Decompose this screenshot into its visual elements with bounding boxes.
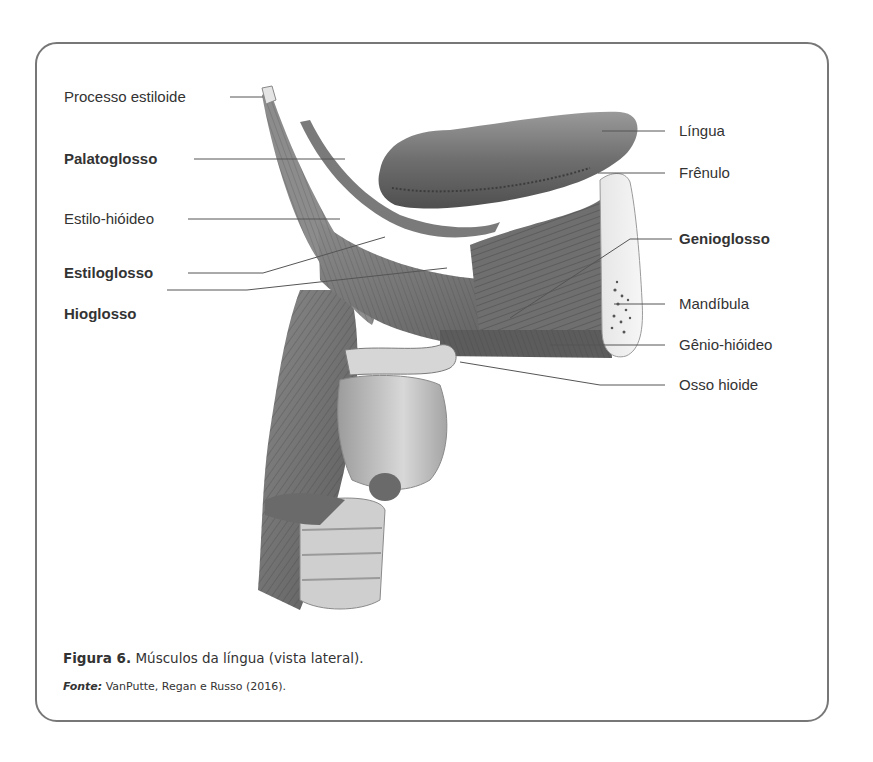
label-hioglosso: Hioglosso <box>64 305 137 323</box>
source-label: Fonte: <box>63 680 102 693</box>
thyroid-cartilage <box>338 375 447 489</box>
label-lingua: Língua <box>679 122 725 140</box>
genioglossus-muscle <box>470 200 610 344</box>
source-text: VanPutte, Regan e Russo (2016). <box>106 680 286 693</box>
figure-caption: Figura 6. Músculos da língua (vista late… <box>63 650 364 666</box>
tongue <box>379 112 638 209</box>
figure-number: Figura 6. <box>63 650 131 666</box>
label-mandibula: Mandíbula <box>679 295 749 313</box>
label-estilo-hioideo: Estilo-hióideo <box>64 210 154 228</box>
label-osso-hioide: Osso hioide <box>679 376 758 394</box>
mandible <box>600 174 642 357</box>
figure-caption-text: Músculos da língua (vista lateral). <box>135 650 363 666</box>
label-frenulo: Frênulo <box>679 164 730 182</box>
label-genio-hioideo: Gênio-hióideo <box>679 336 772 354</box>
figure-source: Fonte: VanPutte, Regan e Russo (2016). <box>63 680 286 693</box>
label-palatoglosso: Palatoglosso <box>64 150 157 168</box>
hyoid-bone <box>345 345 456 375</box>
label-genioglosso: Genioglosso <box>679 230 770 248</box>
label-estiloglosso: Estiloglosso <box>64 264 153 282</box>
label-processo-estiloide: Processo estiloide <box>64 88 186 106</box>
